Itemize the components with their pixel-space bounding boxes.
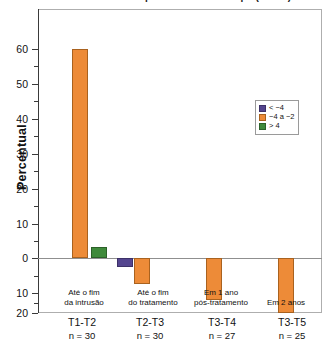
chart-figure: Percentual de recidiva por intervalo de … bbox=[0, 0, 327, 364]
x-group-code-t3t4: T3-T4 bbox=[186, 316, 258, 329]
x-group-t3t4: T3-T4 n = 27 bbox=[186, 316, 258, 342]
group-caption-t3t4-line1: Em 1 ano bbox=[178, 288, 264, 298]
y-label-0: 0 bbox=[0, 253, 28, 263]
x-group-t3t5: T3-T5 n = 25 bbox=[256, 316, 327, 342]
y-tick-minor-35 bbox=[34, 136, 38, 137]
y-tick-minor-neg15 bbox=[34, 303, 38, 304]
x-axis-labels: T1-T2 n = 30 T2-T3 n = 30 T3-T4 n = 27 T… bbox=[38, 313, 322, 364]
x-group-code-t1t2: T1-T2 bbox=[46, 316, 118, 329]
legend-swatch-icon-green bbox=[259, 123, 266, 130]
legend-swatch-icon-purple bbox=[259, 105, 266, 112]
y-tick-20 bbox=[32, 189, 38, 190]
y-label-20: 20 bbox=[0, 184, 28, 194]
legend: < −4 −4 a −2 > 4 bbox=[255, 100, 299, 135]
bar-t1t2-greater-4[interactable] bbox=[91, 247, 107, 258]
chart-title: Percentual de recidiva por intervalo de … bbox=[0, 0, 327, 3]
y-label-30: 30 bbox=[0, 149, 28, 159]
y-tick-minor-15 bbox=[34, 206, 38, 207]
legend-swatch-icon-orange bbox=[259, 114, 266, 121]
y-tick-minor-55 bbox=[34, 66, 38, 67]
legend-label-minus4-to-minus2: −4 a −2 bbox=[269, 113, 294, 121]
group-caption-t1t2-line1: Até o fim bbox=[48, 288, 120, 298]
y-label-60: 60 bbox=[0, 44, 28, 54]
group-caption-t1t2: Até o fim da intrusão bbox=[48, 288, 120, 307]
group-caption-t1t2-line2: da intrusão bbox=[48, 298, 120, 308]
y-tick-40 bbox=[32, 119, 38, 120]
y-tick-neg10 bbox=[32, 293, 38, 294]
y-label-40: 40 bbox=[0, 114, 28, 124]
y-tick-minor-neg5 bbox=[34, 276, 38, 277]
bar-t1t2-minus4-to-minus2[interactable] bbox=[72, 49, 88, 258]
legend-item-less-minus4[interactable]: < −4 bbox=[259, 104, 294, 112]
y-tick-60 bbox=[32, 49, 38, 50]
y-label-neg10: 10 bbox=[0, 288, 28, 298]
y-label-10: 10 bbox=[0, 219, 28, 229]
x-group-code-t3t5: T3-T5 bbox=[256, 316, 327, 329]
y-label-neg20: 20 bbox=[0, 308, 28, 318]
y-label-50: 50 bbox=[0, 79, 28, 89]
x-group-n-t3t5: n = 25 bbox=[256, 329, 327, 342]
x-group-n-t1t2: n = 30 bbox=[46, 329, 118, 342]
legend-item-greater-4[interactable]: > 4 bbox=[259, 122, 294, 130]
y-tick-50 bbox=[32, 84, 38, 85]
group-caption-t3t5-line1: Em 2 anos bbox=[250, 298, 322, 308]
x-group-n-t2t3: n = 30 bbox=[114, 329, 186, 342]
legend-label-less-minus4: < −4 bbox=[269, 104, 284, 112]
y-tick-minor-25 bbox=[34, 171, 38, 172]
x-group-n-t3t4: n = 27 bbox=[186, 329, 258, 342]
y-tick-minor-45 bbox=[34, 101, 38, 102]
legend-label-greater-4: > 4 bbox=[269, 122, 280, 130]
legend-item-minus4-to-minus2[interactable]: −4 a −2 bbox=[259, 113, 294, 121]
x-group-t2t3: T2-T3 n = 30 bbox=[114, 316, 186, 342]
bar-t2t3-less-minus4[interactable] bbox=[117, 258, 133, 267]
x-group-t1t2: T1-T2 n = 30 bbox=[46, 316, 118, 342]
y-tick-minor-5 bbox=[34, 241, 38, 242]
y-axis-line bbox=[38, 9, 39, 313]
y-tick-10 bbox=[32, 224, 38, 225]
group-caption-t3t5: Em 2 anos bbox=[250, 298, 322, 308]
x-group-code-t2t3: T2-T3 bbox=[114, 316, 186, 329]
bar-t2t3-minus4-to-minus2[interactable] bbox=[134, 258, 150, 284]
y-tick-30 bbox=[32, 154, 38, 155]
